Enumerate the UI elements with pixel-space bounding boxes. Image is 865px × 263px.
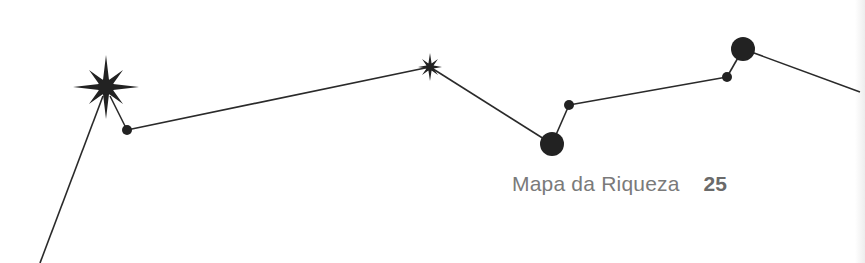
line-segment — [110, 96, 127, 130]
line-segment — [743, 49, 860, 92]
line-segment — [569, 77, 727, 105]
running-title: Mapa da Riqueza — [512, 172, 680, 196]
small-dot-icon — [722, 72, 732, 82]
line-segment — [127, 67, 430, 130]
small-dot-icon — [122, 125, 132, 135]
constellation-illustration — [0, 0, 865, 263]
large-circle-icon — [731, 37, 755, 61]
line-segment — [430, 67, 552, 144]
line-segment — [40, 96, 103, 263]
large-star-icon — [73, 55, 139, 119]
small-dot-icon — [564, 100, 574, 110]
constellation-lines — [40, 49, 860, 263]
small-star-icon — [418, 53, 442, 81]
page-footer: Mapa da Riqueza 25 — [512, 172, 727, 196]
page-number: 25 — [704, 172, 727, 196]
large-circle-icon — [540, 132, 564, 156]
